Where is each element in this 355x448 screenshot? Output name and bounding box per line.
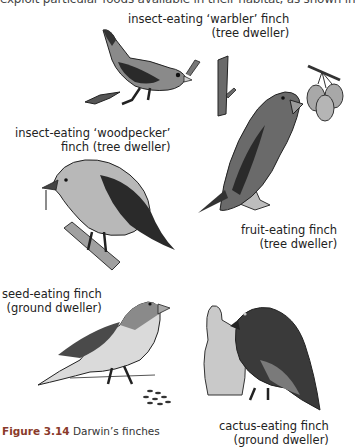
figure-number: Figure 3.14	[2, 425, 70, 437]
fruit-finch-label: fruit-eating finch (tree dweller)	[241, 223, 337, 251]
seed-eating-finch-illustration	[38, 302, 171, 405]
woodpecker-finch-label: insect-eating ‘woodpecker’ finch (tree d…	[15, 126, 170, 154]
figure-caption: Figure 3.14 Darwin’s finches	[2, 425, 160, 437]
fruit-eating-finch-illustration	[198, 92, 303, 213]
bark-twig-illustration	[218, 56, 236, 116]
seed-finch-label: seed-eating finch (ground dweller)	[2, 287, 102, 315]
seed-label-line2: (ground dweller)	[2, 301, 102, 315]
seed-label-line1: seed-eating finch	[2, 287, 102, 301]
figure-title: Darwin’s finches	[73, 425, 160, 437]
warbler-finch-label: insect-eating ‘warbler’ finch (tree dwel…	[128, 12, 289, 40]
fruit-label-line1: fruit-eating finch	[241, 223, 337, 237]
warbler-finch-illustration	[85, 30, 200, 104]
cactus-label-line2: (ground dweller)	[219, 433, 329, 447]
warbler-label-line1: insect-eating ‘warbler’ finch	[128, 12, 289, 26]
fruit-label-line2: (tree dweller)	[241, 237, 337, 251]
cactus-finch-label: cactus-eating finch (ground dweller)	[219, 419, 329, 447]
cactus-label-line1: cactus-eating finch	[219, 419, 329, 433]
woodpecker-label-line1: insect-eating ‘woodpecker’	[15, 126, 170, 140]
warbler-label-line2: (tree dweller)	[128, 26, 289, 40]
woodpecker-finch-illustration	[42, 160, 175, 270]
woodpecker-label-line2: finch (tree dweller)	[15, 140, 170, 154]
fruit-branch-illustration	[307, 66, 343, 121]
cactus-eating-finch-illustration	[230, 308, 320, 411]
